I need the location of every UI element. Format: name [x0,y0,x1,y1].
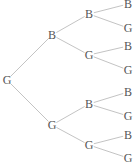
tree-edge [56,106,84,122]
tree-edge [94,105,123,114]
tree-edge [11,39,49,77]
tree-node-b1b2: B [85,7,93,21]
tree-edge [56,37,84,52]
tree-nodes: GBGBGBGBGBGBGBG [3,0,133,165]
tree-node-g1g2g3: G [124,151,133,165]
tree-node-g1: G [48,118,57,132]
tree-node-g1b2g3: G [124,109,133,123]
tree-node-b1g2b3: B [124,39,132,53]
tree-edges [11,5,124,156]
tree-edge [94,93,123,102]
tree-edge [94,57,124,68]
tree-edge [94,47,123,54]
tree-edge [94,16,124,27]
tree-node-g1g2: G [85,138,94,152]
tree-edge [56,16,84,32]
tree-node-g1b2b3: B [124,85,132,99]
tree-node-b1g2: G [85,48,94,62]
tree-node-g1b2: B [85,97,93,111]
tree-node-root: G [3,73,12,87]
tree-node-b1b2g3: G [124,21,133,35]
tree-edge [11,84,49,122]
tree-node-b1g2g3: G [124,63,133,77]
tree-node-b1b2b3: B [124,0,132,11]
tree-node-g1g2b3: B [124,128,132,142]
tree-edge [94,136,123,144]
tree-node-b1: B [48,28,56,42]
tree-edge [94,147,124,157]
probability-tree-diagram: GBGBGBGBGBGBGBG [0,0,134,166]
tree-edge [94,5,123,13]
tree-edge [56,127,84,142]
